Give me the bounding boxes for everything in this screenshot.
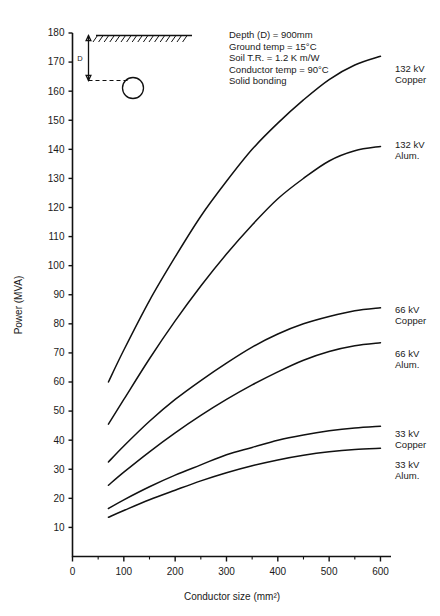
- x-tick-label: 300: [218, 566, 235, 577]
- annotation-line-1: Ground temp = 15°C: [229, 41, 317, 52]
- y-tick-label: 110: [49, 231, 65, 242]
- hatch-stroke: [110, 36, 115, 43]
- y-tick-label: 120: [48, 202, 65, 213]
- hatch-stroke: [171, 36, 176, 43]
- curve-2: [108, 308, 380, 462]
- hatch-stroke: [183, 36, 188, 43]
- y-tick-label: 10: [53, 522, 65, 533]
- annotation-line-0: Depth (D) = 900mm: [229, 29, 313, 40]
- curve-1: [108, 146, 380, 424]
- power-vs-conductor-size-chart: 1020304050607080901001101201301401501601…: [0, 0, 440, 616]
- cable-circle: [123, 78, 144, 99]
- hatch-stroke: [127, 36, 132, 43]
- x-tick-label: 0: [70, 566, 76, 577]
- y-tick-label: 140: [48, 144, 65, 155]
- annotation-line-4: Solid bonding: [229, 75, 287, 86]
- y-tick-label: 130: [48, 173, 65, 184]
- conditions-annotation-block: Depth (D) = 900mmGround temp = 15°CSoil …: [229, 29, 329, 86]
- x-tick-label: 200: [167, 566, 184, 577]
- hatch-stroke: [104, 36, 109, 43]
- chart-container: 1020304050607080901001101201301401501601…: [0, 0, 440, 616]
- series-label-voltage-1: 132 kV: [395, 139, 425, 150]
- annotation-line-3: Conductor temp = 90°C: [229, 64, 329, 75]
- series-label-material-4: Copper: [395, 439, 426, 450]
- series-label-voltage-5: 33 kV: [395, 459, 420, 470]
- y-tick-label: 180: [48, 27, 65, 38]
- hatch-stroke: [160, 36, 165, 43]
- y-tick-label: 170: [48, 56, 65, 67]
- y-axis-ticks: 1020304050607080901001101201301401501601…: [48, 27, 73, 532]
- series-label-material-3: Alum.: [395, 359, 419, 370]
- hatch-stroke: [177, 36, 182, 43]
- y-tick-label: 90: [53, 289, 65, 300]
- hatch-stroke: [132, 36, 137, 43]
- series-label-material-1: Alum.: [395, 150, 419, 161]
- x-tick-label: 400: [269, 566, 286, 577]
- ground-surface-hatching: [93, 36, 192, 43]
- y-tick-label: 30: [53, 464, 65, 475]
- y-tick-label: 40: [53, 435, 65, 446]
- x-axis-title: Conductor size (mm²): [184, 591, 280, 602]
- x-tick-label: 600: [372, 566, 389, 577]
- hatch-stroke: [138, 36, 143, 43]
- curve-3: [108, 343, 380, 486]
- y-tick-label: 50: [53, 405, 65, 416]
- y-tick-label: 100: [48, 260, 65, 271]
- hatch-stroke: [166, 36, 171, 43]
- series-label-material-5: Alum.: [395, 470, 419, 481]
- series-label-voltage-4: 33 kV: [395, 428, 420, 439]
- series-labels: 132 kVCopper132 kVAlum.66 kVCopper66 kVA…: [395, 63, 426, 481]
- y-tick-label: 80: [53, 318, 65, 329]
- hatch-stroke: [115, 36, 120, 43]
- hatch-stroke: [155, 36, 160, 43]
- curve-0: [108, 56, 380, 382]
- series-label-voltage-0: 132 kV: [395, 63, 425, 74]
- series-label-voltage-3: 66 kV: [395, 348, 420, 359]
- y-tick-label: 60: [53, 376, 65, 387]
- x-tick-label: 500: [321, 566, 338, 577]
- series-label-material-0: Copper: [395, 74, 426, 85]
- y-tick-label: 70: [53, 347, 65, 358]
- series-label-voltage-2: 66 kV: [395, 304, 420, 315]
- x-axis-ticks: 0100200300400500600: [70, 557, 390, 577]
- hatch-stroke: [93, 36, 98, 43]
- curve-5: [108, 448, 380, 517]
- axis-lines: [73, 33, 392, 557]
- annotation-line-2: Soil T.R. = 1.2 K m/W: [229, 52, 319, 63]
- y-axis-title: Power (MVA): [13, 276, 24, 335]
- depth-label: D: [77, 54, 83, 63]
- burial-depth-diagram: D: [77, 36, 192, 99]
- y-tick-label: 160: [48, 86, 65, 97]
- data-curves: [108, 56, 380, 517]
- x-tick-label: 100: [115, 566, 132, 577]
- y-tick-label: 150: [48, 115, 65, 126]
- series-label-material-2: Copper: [395, 315, 426, 326]
- hatch-stroke: [99, 36, 104, 43]
- hatch-stroke: [121, 36, 126, 43]
- hatch-stroke: [143, 36, 148, 43]
- hatch-stroke: [149, 36, 154, 43]
- y-tick-label: 20: [53, 493, 65, 504]
- hatch-strokes: [93, 36, 187, 43]
